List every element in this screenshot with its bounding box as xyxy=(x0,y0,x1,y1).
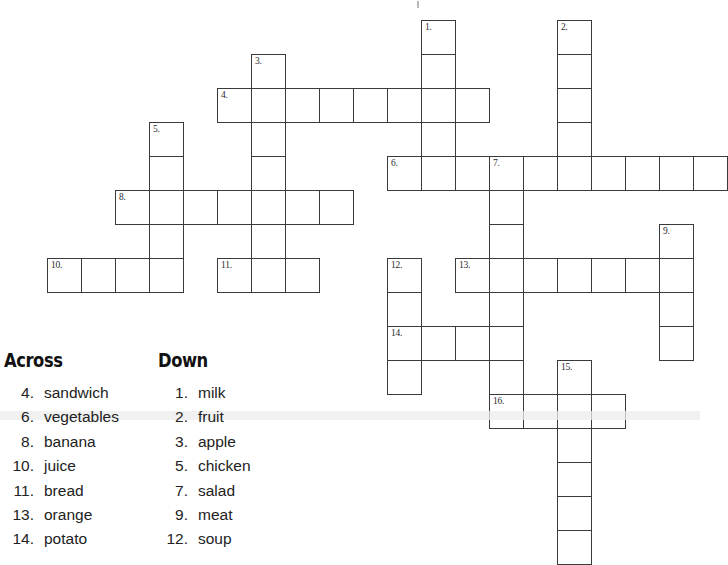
clue-number: 11. xyxy=(4,479,34,503)
crossword-cell[interactable] xyxy=(557,258,592,293)
clue-item: 9.meat xyxy=(158,503,338,527)
clue-number: 2. xyxy=(158,405,188,429)
crossword-cell-number: 2. xyxy=(561,21,568,33)
crossword-cell[interactable] xyxy=(557,156,592,191)
crossword-cell-numbered[interactable]: 11. xyxy=(217,258,252,293)
clues-across-column: Across 4.sandwich6.vegetables8.banana10.… xyxy=(4,348,154,552)
crossword-cell[interactable] xyxy=(285,190,320,225)
clue-word: juice xyxy=(34,454,76,478)
crossword-cell[interactable] xyxy=(659,292,694,327)
crossword-cell[interactable] xyxy=(659,258,694,293)
crossword-cell-numbered[interactable]: 5. xyxy=(149,122,184,157)
crossword-cell-number: 14. xyxy=(391,327,402,339)
crossword-cell[interactable] xyxy=(591,258,626,293)
crossword-cell[interactable] xyxy=(489,258,524,293)
crossword-cell-numbered[interactable]: 6. xyxy=(387,156,422,191)
clue-number: 12. xyxy=(158,527,188,551)
crossword-cell[interactable] xyxy=(421,122,456,157)
crossword-cell[interactable] xyxy=(489,224,524,259)
clue-item: 4.sandwich xyxy=(4,381,154,405)
clue-number: 5. xyxy=(158,454,188,478)
crossword-cell[interactable] xyxy=(387,292,422,327)
crossword-cell[interactable] xyxy=(251,88,286,123)
crossword-cell-number: 8. xyxy=(119,191,126,203)
clue-item: 12.soup xyxy=(158,527,338,551)
crossword-cell[interactable] xyxy=(489,190,524,225)
crossword-cell[interactable] xyxy=(115,258,150,293)
crossword-cell[interactable] xyxy=(421,88,456,123)
crossword-cell[interactable] xyxy=(421,156,456,191)
clue-word: banana xyxy=(34,430,96,454)
clue-word: apple xyxy=(188,430,236,454)
clues-down-heading: Down xyxy=(158,348,313,372)
crossword-cell-number: 3. xyxy=(255,55,262,67)
crossword-cell[interactable] xyxy=(149,156,184,191)
crossword-cell[interactable] xyxy=(523,258,558,293)
crossword-cell[interactable] xyxy=(387,88,422,123)
crossword-cell[interactable] xyxy=(81,258,116,293)
crossword-cell-numbered[interactable]: 10. xyxy=(47,258,82,293)
crossword-cell[interactable] xyxy=(251,224,286,259)
crossword-cell-numbered[interactable]: 7. xyxy=(489,156,524,191)
crossword-cell[interactable] xyxy=(251,258,286,293)
crossword-cell-number: 13. xyxy=(459,259,470,271)
crossword-cell[interactable] xyxy=(251,122,286,157)
crossword-cell-number: 10. xyxy=(51,259,62,271)
clue-word: milk xyxy=(188,381,226,405)
clue-number: 1. xyxy=(158,381,188,405)
crossword-cell[interactable] xyxy=(625,156,660,191)
crossword-cell-numbered[interactable]: 8. xyxy=(115,190,150,225)
clue-word: meat xyxy=(188,503,232,527)
crossword-cell[interactable] xyxy=(659,156,694,191)
clue-word: vegetables xyxy=(34,405,119,429)
crossword-cell-number: 6. xyxy=(391,157,398,169)
clue-item: 7.salad xyxy=(158,479,338,503)
crossword-cell-numbered[interactable]: 2. xyxy=(557,20,592,55)
crossword-cell-numbered[interactable]: 13. xyxy=(455,258,490,293)
crossword-cell[interactable] xyxy=(183,190,218,225)
crossword-cell[interactable] xyxy=(353,88,388,123)
crossword-cell-numbered[interactable]: 3. xyxy=(251,54,286,89)
crossword-cell[interactable] xyxy=(251,190,286,225)
crossword-cell[interactable] xyxy=(693,156,728,191)
clues-across-heading: Across xyxy=(4,348,133,372)
crossword-cell-number: 9. xyxy=(663,225,670,237)
crossword-cell[interactable] xyxy=(489,292,524,327)
crossword-cell-numbered[interactable]: 9. xyxy=(659,224,694,259)
crossword-cell[interactable] xyxy=(217,190,252,225)
clue-item: 8.banana xyxy=(4,430,154,454)
clue-word: bread xyxy=(34,479,84,503)
crossword-cell[interactable] xyxy=(319,190,354,225)
crossword-cell[interactable] xyxy=(591,156,626,191)
clue-number: 14. xyxy=(4,527,34,551)
crossword-cell-numbered[interactable]: 4. xyxy=(217,88,252,123)
clues-section: Across 4.sandwich6.vegetables8.banana10.… xyxy=(0,348,700,554)
clues-down-column: Down 1.milk2.fruit3.apple5.chicken7.sala… xyxy=(158,348,338,552)
crossword-cell[interactable] xyxy=(455,156,490,191)
crossword-cell[interactable] xyxy=(455,88,490,123)
crossword-cell-number: 12. xyxy=(391,259,402,271)
clue-word: salad xyxy=(188,479,235,503)
crossword-cell[interactable] xyxy=(285,258,320,293)
crossword-cell[interactable] xyxy=(149,258,184,293)
crossword-cell[interactable] xyxy=(421,54,456,89)
clues-down-list: 1.milk2.fruit3.apple5.chicken7.salad9.me… xyxy=(158,381,338,552)
clue-item: 6.vegetables xyxy=(4,405,154,429)
crossword-cell[interactable] xyxy=(523,156,558,191)
crossword-cell-numbered[interactable]: 12. xyxy=(387,258,422,293)
crossword-cell[interactable] xyxy=(319,88,354,123)
crossword-cell[interactable] xyxy=(149,190,184,225)
crossword-cell[interactable] xyxy=(557,54,592,89)
clue-item: 2.fruit xyxy=(158,405,338,429)
crossword-cell[interactable] xyxy=(557,88,592,123)
crossword-cell-number: 7. xyxy=(493,157,500,169)
crossword-cell-number: 4. xyxy=(221,89,228,101)
clue-item: 10.juice xyxy=(4,454,154,478)
crossword-cell[interactable] xyxy=(557,122,592,157)
crossword-cell[interactable] xyxy=(149,224,184,259)
crossword-cell[interactable] xyxy=(285,88,320,123)
crossword-cell[interactable] xyxy=(625,258,660,293)
crossword-cell-numbered[interactable]: 1. xyxy=(421,20,456,55)
clue-item: 14.potato xyxy=(4,527,154,551)
crossword-cell[interactable] xyxy=(251,156,286,191)
